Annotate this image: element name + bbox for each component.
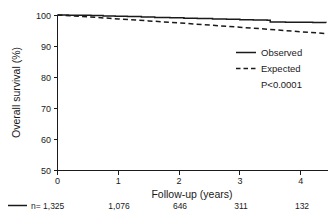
survival-chart-figure: 100 90 80 70 60 50 0 1 2 3 4 Follow-up (… (0, 0, 335, 219)
risk-cell-0: n= 1,325 (31, 201, 65, 211)
y-tick-label-90: 90 (41, 42, 51, 52)
y-tick-label-100: 100 (36, 11, 51, 21)
risk-cell-2: 646 (173, 201, 187, 211)
legend-pvalue: P<0.0001 (261, 79, 302, 90)
risk-cell-3: 311 (234, 201, 248, 211)
y-axis: 100 90 80 70 60 50 (36, 11, 58, 176)
risk-cell-4: 132 (295, 201, 309, 211)
x-tick-label-3: 3 (237, 176, 242, 186)
x-axis: 0 1 2 3 4 (55, 171, 328, 187)
chart-legend: Observed Expected P<0.0001 (236, 47, 302, 90)
x-axis-title: Follow-up (years) (151, 188, 232, 200)
y-axis-title: Overall survival (%) (10, 47, 22, 138)
x-tick-label-1: 1 (116, 176, 121, 186)
y-tick-label-50: 50 (41, 166, 51, 176)
x-tick-label-2: 2 (177, 176, 182, 186)
y-tick-label-80: 80 (41, 73, 51, 83)
y-tick-label-70: 70 (41, 104, 51, 114)
risk-table-row: n= 1,325 1,076 646 311 132 (8, 201, 309, 211)
series-observed-line (58, 15, 327, 23)
legend-label-expected: Expected (261, 63, 301, 74)
x-tick-label-4: 4 (298, 176, 303, 186)
legend-label-observed: Observed (261, 47, 302, 58)
y-tick-label-60: 60 (41, 135, 51, 145)
chart-canvas: 100 90 80 70 60 50 0 1 2 3 4 Follow-up (… (0, 0, 335, 219)
x-tick-label-0: 0 (55, 176, 60, 186)
risk-cell-1: 1,076 (108, 201, 130, 211)
